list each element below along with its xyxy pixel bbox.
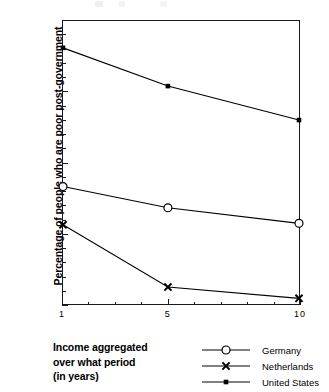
series-germany [59,183,303,228]
series-line [63,225,299,299]
x-tick-label: 10 [285,309,315,319]
marker-cross-x [59,221,66,228]
plot-area [62,20,300,305]
x-axis-caption: Income aggregated over what period (in y… [53,340,148,384]
series-united-states [61,46,302,123]
y-tick-mark [62,305,68,306]
caption-line-3: (in years) [53,369,148,384]
marker-filled-square [224,380,229,385]
marker-open-circle [295,219,303,227]
marker-open-circle [222,346,230,354]
legend-label: United States [252,377,319,388]
x-tick-label: 5 [153,309,183,319]
legend-label: Netherlands [252,361,313,372]
legend-swatch [200,358,252,374]
legend-label: Germany [252,345,301,356]
legend-swatch [200,374,252,390]
scan-artifact [85,1,215,7]
legend-item[interactable]: Netherlands [200,358,319,374]
series-line [63,48,299,120]
chart-figure: Percentage of people who are poor post-g… [0,0,329,392]
marker-open-circle [164,204,172,212]
series-canvas [63,21,299,304]
x-tick-label: 1 [47,309,77,319]
caption-line-1: Income aggregated [53,340,148,355]
caption-line-2: over what period [53,355,148,370]
series-netherlands [59,221,302,302]
marker-filled-square [61,46,66,51]
marker-open-circle [59,183,67,191]
series-line [63,187,299,224]
marker-filled-square [166,84,171,89]
legend-swatch [200,342,252,358]
marker-filled-square [297,118,302,123]
legend-item[interactable]: United States [200,374,319,390]
legend-item[interactable]: Germany [200,342,319,358]
legend: GermanyNetherlandsUnited States [200,342,319,390]
